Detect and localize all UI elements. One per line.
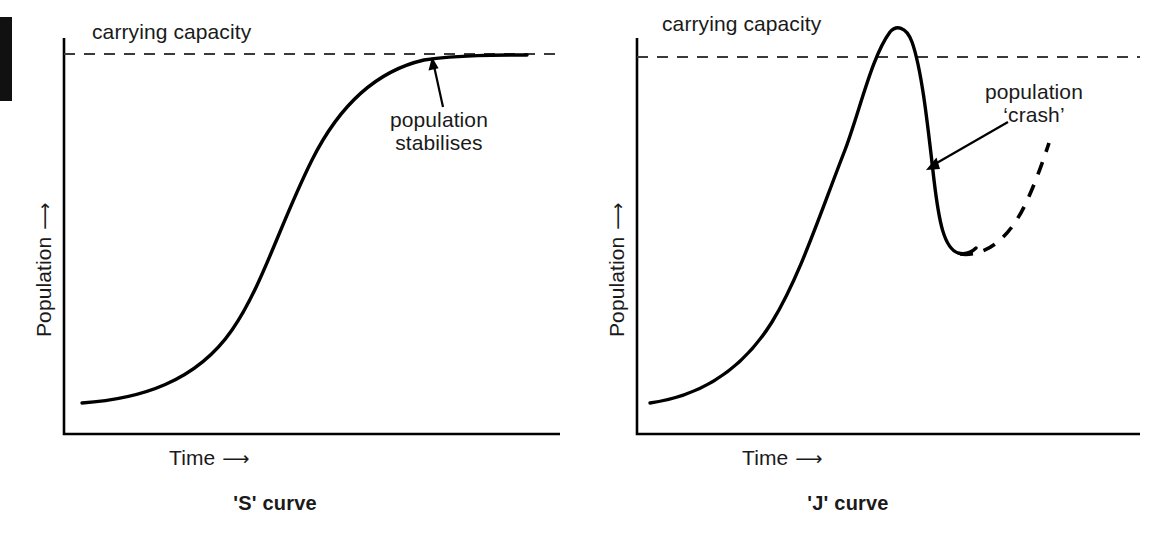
j-curve-annotation-text: population ‘crash’ — [985, 80, 1083, 126]
s-curve-y-axis-arrow-icon: ⟶ — [33, 202, 55, 229]
j-curve-y-axis-label: Population — [605, 237, 628, 337]
j-curve-caption: 'J' curve — [807, 492, 888, 515]
j-curve-annotation-line-2: ‘crash’ — [985, 103, 1083, 126]
s-curve-annotation-line-1: population — [390, 108, 488, 131]
j-curve-y-axis-label-group: Population⟶ — [605, 202, 629, 337]
s-curve-y-axis-label-group: Population⟶ — [32, 202, 56, 337]
j-curve-recovery-line — [960, 143, 1049, 254]
figure-canvas: carrying capacity population stabilises … — [0, 0, 1153, 533]
j-curve-population-line — [650, 28, 976, 403]
j-curve-x-axis-arrow-icon: ⟶ — [795, 447, 822, 469]
panel-s-curve — [64, 38, 560, 434]
s-curve-x-axis-label: Time — [169, 446, 215, 469]
s-curve-annotation-arrow — [429, 57, 444, 107]
j-curve-x-axis-label-group: Time⟶ — [742, 446, 823, 470]
s-curve-annotation-text: population stabilises — [390, 108, 488, 154]
j-curve-annotation-arrow — [926, 122, 1008, 170]
s-curve-y-axis-label: Population — [32, 237, 55, 337]
s-curve-x-axis-arrow-icon: ⟶ — [222, 447, 249, 469]
j-curve-carrying-capacity-label: carrying capacity — [662, 12, 821, 36]
j-curve-y-axis-arrow-icon: ⟶ — [606, 202, 628, 229]
s-curve-x-axis-label-group: Time⟶ — [169, 446, 250, 470]
s-curve-caption: 'S' curve — [233, 492, 317, 515]
j-curve-x-axis-label: Time — [742, 446, 788, 469]
j-curve-annotation-line-1: population — [985, 80, 1083, 103]
s-curve-carrying-capacity-label: carrying capacity — [92, 20, 251, 44]
s-curve-axes — [64, 38, 560, 434]
s-curve-annotation-line-2: stabilises — [390, 131, 488, 154]
